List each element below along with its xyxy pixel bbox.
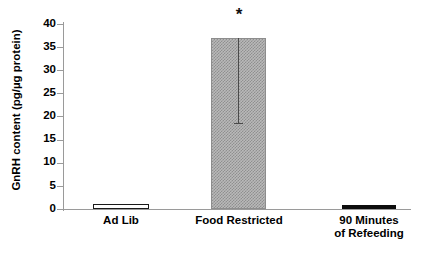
bar-ad-lib xyxy=(93,204,149,209)
chart-figure: GnRH content (pg/µg protein) 40 35 30 25… xyxy=(0,0,435,266)
y-tick-label: 0 xyxy=(18,203,56,215)
y-axis-tick xyxy=(57,93,63,94)
error-bar-cap-lower xyxy=(234,123,243,124)
y-axis-tick xyxy=(57,70,63,71)
y-axis-tick xyxy=(57,116,63,117)
x-label-ad-lib: Ad Lib xyxy=(93,214,149,227)
bar-90-minutes-refeeding xyxy=(342,205,396,209)
y-axis-tick xyxy=(57,47,63,48)
y-tick-label: 5 xyxy=(18,180,56,192)
y-axis-tick-labels: 40 35 30 25 20 15 10 5 0 xyxy=(14,24,56,209)
x-label-90-minutes-refeeding: 90 Minutes of Refeeding xyxy=(317,214,421,240)
y-axis-tick xyxy=(57,140,63,141)
x-label-line: Food Restricted xyxy=(195,214,283,226)
y-axis-tick xyxy=(57,163,63,164)
y-axis-tick xyxy=(57,24,63,25)
plot-area: * xyxy=(63,24,411,209)
x-label-line: Ad Lib xyxy=(103,214,139,226)
x-label-food-restricted: Food Restricted xyxy=(183,214,295,227)
y-axis-tick xyxy=(57,186,63,187)
y-tick-label: 20 xyxy=(18,110,56,122)
x-label-line: 90 Minutes xyxy=(339,214,398,226)
error-bar-food-restricted xyxy=(238,38,239,124)
cut-off-caption xyxy=(28,258,428,266)
x-axis-line xyxy=(63,209,411,210)
x-label-line: of Refeeding xyxy=(334,227,404,239)
significance-asterisk: * xyxy=(224,6,254,23)
y-tick-label: 10 xyxy=(18,156,56,168)
y-tick-label: 35 xyxy=(18,41,56,53)
y-tick-label: 25 xyxy=(18,87,56,99)
y-tick-label: 15 xyxy=(18,133,56,145)
y-tick-label: 30 xyxy=(18,64,56,76)
y-axis-tick xyxy=(57,209,63,210)
y-tick-label: 40 xyxy=(18,18,56,30)
x-axis-category-labels: Ad Lib Food Restricted 90 Minutes of Ref… xyxy=(63,214,411,260)
